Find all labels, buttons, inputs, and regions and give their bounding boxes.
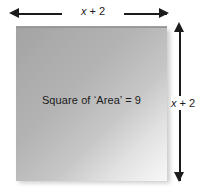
square-area-label: Square of ‘Area’ = 9: [16, 94, 167, 106]
width-dimension-label: x + 2: [62, 5, 124, 17]
square-top-edge: [16, 26, 167, 28]
height-dimension-label: x + 2: [171, 96, 195, 110]
geometry-figure: Square of ‘Area’ = 9 x + 2 x + 2: [0, 0, 204, 194]
width-arrow-left-head-icon: [9, 8, 19, 18]
height-arrow-up-head-icon: [174, 22, 184, 32]
height-arrow-down-head-icon: [174, 172, 184, 182]
width-arrow-right-head-icon: [159, 8, 169, 18]
